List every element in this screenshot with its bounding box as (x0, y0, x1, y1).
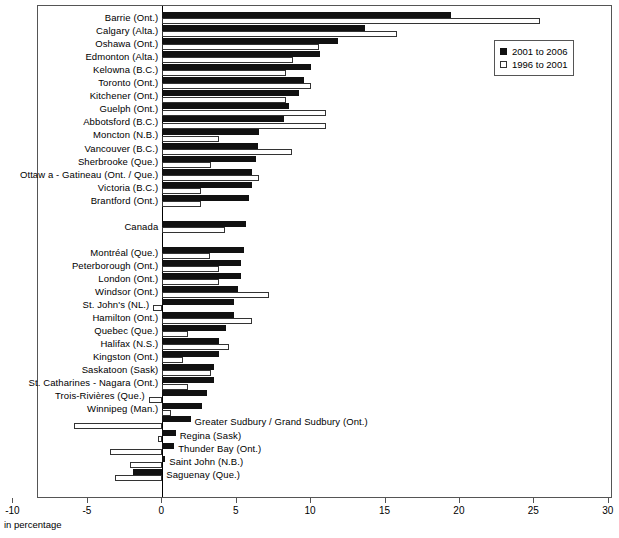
category-label: Greater Sudbury / Grand Sudbury (Ont.) (195, 417, 368, 427)
bar-1996-2001 (162, 318, 251, 324)
chart-legend: 2001 to 2006 1996 to 2001 (494, 40, 574, 76)
chart-root: Barrie (Ont.)Calgary (Alta.)Oshawa (Ont.… (0, 0, 619, 538)
bar-2001-2006 (162, 38, 338, 44)
bar-2001-2006 (162, 25, 364, 31)
bar-2001-2006 (162, 103, 289, 109)
bar-1996-2001 (162, 18, 540, 24)
x-tick-label: -5 (82, 505, 91, 516)
legend-item-2001-2006: 2001 to 2006 (500, 45, 567, 58)
bar-2001-2006 (162, 351, 219, 357)
bar-1996-2001 (130, 462, 163, 468)
bar-1996-2001 (162, 227, 225, 233)
category-label: Saguenay (Que.) (166, 470, 240, 480)
bar-2001-2006 (162, 221, 245, 227)
bar-2001-2006 (162, 364, 214, 370)
bar-2001-2006 (162, 312, 233, 318)
category-label: Edmonton (Alta.) (85, 52, 158, 62)
category-label: Victoria (B.C.) (98, 183, 158, 193)
category-label: St. John's (NL.) (83, 300, 150, 310)
bar-2001-2006 (162, 51, 320, 57)
plot-inner: Barrie (Ont.)Calgary (Alta.)Oshawa (Ont.… (38, 6, 611, 497)
bar-2001-2006 (162, 377, 214, 383)
category-label: Calgary (Alta.) (96, 26, 158, 36)
category-label: Quebec (Que.) (94, 326, 158, 336)
bar-1996-2001 (162, 292, 269, 298)
category-label: Thunder Bay (Ont.) (178, 444, 261, 454)
category-label: Vancouver (B.C.) (85, 144, 159, 154)
category-label: Halifax (N.S.) (100, 339, 158, 349)
bar-2001-2006 (162, 116, 284, 122)
plot-area: Barrie (Ont.)Calgary (Alta.)Oshawa (Ont.… (37, 5, 612, 498)
legend-swatch-dark (500, 48, 507, 55)
category-label: Toronto (Ont.) (98, 78, 158, 88)
category-label: Windsor (Ont.) (95, 287, 158, 297)
bar-1996-2001 (162, 175, 259, 181)
bar-1996-2001 (162, 149, 291, 155)
bar-1996-2001 (158, 436, 162, 442)
bar-1996-2001 (162, 136, 219, 142)
x-tick (385, 498, 386, 503)
category-label: Kitchener (Ont.) (90, 91, 159, 101)
bar-1996-2001 (162, 123, 326, 129)
category-label: Oshawa (Ont.) (95, 39, 158, 49)
bar-2001-2006 (162, 403, 202, 409)
bar-1996-2001 (162, 410, 171, 416)
category-label: Brantford (Ont.) (91, 196, 159, 206)
bar-1996-2001 (153, 305, 162, 311)
x-tick-label: 30 (602, 505, 613, 516)
bar-2001-2006 (162, 12, 451, 18)
bar-1996-2001 (162, 279, 219, 285)
category-label: Sherbrooke (Que.) (78, 157, 158, 167)
bar-1996-2001 (162, 70, 286, 76)
bar-1996-2001 (162, 253, 210, 259)
x-tick (87, 498, 88, 503)
category-label: Hamilton (Ont.) (92, 313, 158, 323)
category-label: Canada (124, 222, 158, 232)
x-tick (12, 498, 13, 503)
bar-2001-2006 (162, 156, 256, 162)
bar-1996-2001 (149, 397, 162, 403)
x-tick-label: 5 (233, 505, 239, 516)
category-label: Peterborough (Ont.) (72, 261, 158, 271)
x-tick-label: 10 (305, 505, 316, 516)
bar-2001-2006 (162, 64, 311, 70)
bar-1996-2001 (162, 44, 318, 50)
bar-2001-2006 (162, 286, 238, 292)
category-label: Guelph (Ont.) (99, 104, 158, 114)
x-tick (533, 498, 534, 503)
bar-1996-2001 (162, 57, 293, 63)
category-label: Kingston (Ont.) (93, 352, 158, 362)
legend-label-1996-2001: 1996 to 2001 (512, 59, 567, 70)
bar-1996-2001 (74, 423, 162, 429)
category-label: Regina (Sask) (180, 431, 242, 441)
bar-2001-2006 (162, 129, 259, 135)
bar-1996-2001 (162, 357, 183, 363)
bar-2001-2006 (162, 260, 241, 266)
x-tick (310, 498, 311, 503)
legend-label-2001-2006: 2001 to 2006 (512, 46, 567, 57)
category-label: Kelowna (B.C.) (93, 65, 158, 75)
bar-2001-2006 (162, 182, 251, 188)
category-label: Winnipeg (Man.) (87, 404, 158, 414)
bar-2001-2006 (162, 77, 303, 83)
bar-2001-2006 (162, 143, 257, 149)
bar-1996-2001 (162, 384, 187, 390)
category-label: Abbotsford (B.C.) (83, 117, 158, 127)
bar-1996-2001 (115, 475, 163, 481)
x-tick (161, 498, 162, 503)
bar-1996-2001 (162, 188, 201, 194)
category-label: Saskatoon (Sask) (82, 365, 159, 375)
bar-1996-2001 (162, 201, 201, 207)
bar-2001-2006 (162, 443, 174, 449)
x-axis: -10-5051015202530 (37, 498, 612, 538)
bar-2001-2006 (133, 469, 163, 475)
category-label: Montréal (Que.) (90, 248, 158, 258)
x-tick-label: 25 (528, 505, 539, 516)
bar-2001-2006 (162, 325, 226, 331)
legend-swatch-light (500, 61, 507, 68)
category-label: St. Catharines - Nagara (Ont.) (29, 378, 159, 388)
x-tick-label: 20 (453, 505, 464, 516)
bar-2001-2006 (162, 390, 207, 396)
bar-2001-2006 (162, 247, 244, 253)
bar-1996-2001 (162, 110, 326, 116)
